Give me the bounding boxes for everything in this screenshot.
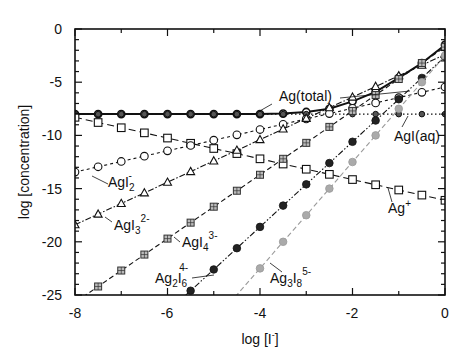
leader-agi2: [92, 176, 108, 184]
y-tick-minus25: -25: [42, 287, 62, 303]
leader-agi3: [105, 217, 112, 222]
label-ag3i8: Ag3I85-: [270, 266, 311, 289]
leader-agi-aq: [402, 116, 408, 127]
x-tick-labels: -8 -6 -4 -2 0: [69, 305, 449, 321]
y-axis-label: log [concentration]: [16, 105, 32, 219]
y-tick-0: 0: [54, 21, 62, 37]
label-agi3: AgI32-: [114, 213, 149, 236]
leader-agi4: [174, 237, 180, 242]
x-tick-0: 0: [441, 305, 449, 321]
label-agi-aq: AgI(aq): [394, 128, 440, 144]
y-tick-minus15: -15: [42, 181, 62, 197]
label-ag-total: Ag(total): [279, 88, 332, 104]
x-axis-label: log [I-]: [241, 330, 278, 347]
y-tick-labels: 0 -5 -10 -15 -20 -25: [42, 21, 62, 303]
label-agi2: AgI2-: [108, 170, 135, 193]
series-ag3i8-5-: [235, 52, 449, 297]
x-tick-minus8: -8: [69, 305, 82, 321]
series-ag-total-: [71, 41, 448, 117]
label-ag2i6: Ag2I64-: [155, 262, 188, 289]
x-tick-minus2: -2: [346, 305, 359, 321]
y-tick-minus5: -5: [50, 74, 63, 90]
y-tick-minus10: -10: [42, 127, 62, 143]
leader-ag2i6: [192, 275, 214, 278]
y-tick-minus20: -20: [42, 234, 62, 250]
x-tick-minus4: -4: [254, 305, 267, 321]
x-tick-minus6: -6: [161, 305, 174, 321]
label-agi4: AgI43-: [182, 230, 217, 253]
speciation-chart: 0 -5 -10 -15 -20 -25 -8 -6 -4 -2 0 log […: [0, 0, 468, 360]
leader-ag-total-2: [258, 104, 272, 112]
